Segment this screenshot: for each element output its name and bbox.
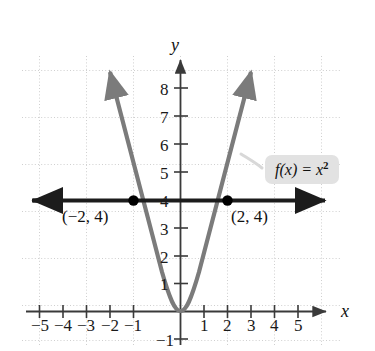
point-label-left: (−2, 4) [62, 208, 108, 225]
y-tick-label-4: 4 [160, 193, 169, 210]
y-tick-label-1: 1 [160, 276, 169, 293]
y-tick-label-3: 3 [160, 221, 169, 238]
function-equation-callout: f(x) = x2 [265, 155, 339, 184]
grid-horizontal [22, 71, 341, 341]
x-tick-label--5: −5 [31, 317, 49, 334]
intersection-point-right [222, 195, 232, 205]
x-tick-label-2: 2 [223, 317, 232, 334]
point-label-right: (2, 4) [231, 208, 268, 225]
function-equation-exponent: 2 [323, 159, 329, 171]
parabola-arrow-left [110, 72, 114, 88]
y-tick-label-6: 6 [160, 137, 169, 154]
x-tick-label-4: 4 [270, 317, 279, 334]
x-tick-label--2: −2 [101, 317, 119, 334]
x-tick-label--1: −1 [124, 317, 142, 334]
y-tick-label-7: 7 [160, 109, 169, 126]
x-tick-label-1: 1 [200, 317, 209, 334]
y-tick-label-5: 5 [160, 165, 169, 182]
x-tick-label--4: −4 [54, 317, 72, 334]
x-tick-label-5: 5 [294, 317, 303, 334]
y-tick-label-8: 8 [160, 81, 169, 98]
function-equation-base: f(x) = x [275, 161, 323, 178]
y-tick-label-2: 2 [160, 249, 169, 266]
y-axis-label: y [171, 36, 179, 54]
callout-leader-line [241, 154, 262, 168]
parabola-arrow-right [247, 72, 251, 88]
intersection-point-left [128, 195, 138, 205]
x-tick-label-3: 3 [247, 317, 256, 334]
chart-figure: y x −5 −4 −3 −2 −1 1 2 3 4 5 8 7 6 5 4 3… [0, 0, 375, 351]
y-tick-label--1: −1 [156, 332, 174, 349]
x-tick-label--3: −3 [77, 317, 95, 334]
x-axis-label: x [341, 302, 349, 320]
